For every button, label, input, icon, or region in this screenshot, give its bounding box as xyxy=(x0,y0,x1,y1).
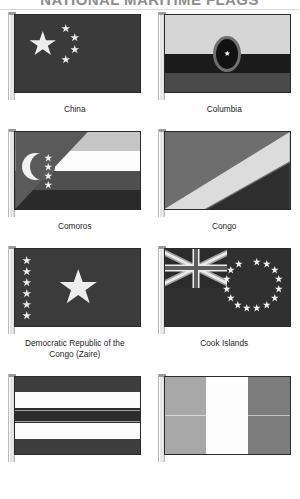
star-large xyxy=(59,269,97,306)
flag-cell-columbia[interactable]: Columbia xyxy=(150,12,300,115)
flag-unit xyxy=(158,374,291,462)
flag-cell-drc[interactable]: Democratic Republic of the Congo (Zaire) xyxy=(0,246,150,360)
flag-unit xyxy=(158,129,291,217)
flag-unit xyxy=(158,246,291,334)
flag-caption: Congo xyxy=(158,221,292,232)
stripe-center xyxy=(206,377,248,454)
star-small xyxy=(22,256,31,265)
caption-line: Congo xyxy=(158,221,292,232)
flag-cell-comoros[interactable]: Comoros xyxy=(0,129,150,232)
flag-image-comoros xyxy=(14,131,141,210)
star-small xyxy=(61,55,70,64)
flag-unit xyxy=(8,129,141,217)
flag-image-columbia xyxy=(164,14,291,93)
caption-line: Columbia xyxy=(158,104,292,115)
flag-cell-cote-divoire[interactable] xyxy=(150,374,300,462)
caption-line: China xyxy=(8,104,142,115)
flag-image-china xyxy=(14,14,141,93)
star-small xyxy=(22,289,31,298)
flag-row: Comoros Congo xyxy=(0,129,299,232)
flag-caption: Cook Islands xyxy=(158,338,292,349)
title-divider xyxy=(0,9,299,10)
stripe-5 xyxy=(15,439,140,454)
emblem-star xyxy=(224,51,230,57)
union-jack-canton xyxy=(165,249,228,288)
flag-image-drc xyxy=(14,248,141,327)
band-4 xyxy=(15,190,140,209)
stripe-right xyxy=(248,377,290,454)
stripe-4 xyxy=(15,423,140,438)
star-small xyxy=(70,33,79,42)
star-small xyxy=(22,300,31,309)
flag-image-congo xyxy=(164,131,291,210)
flag-caption: Comoros xyxy=(8,221,142,232)
flag-reference-page: NATIONAL MARITIME FLAGS xyxy=(0,0,299,499)
star-small xyxy=(22,278,31,287)
flag-row xyxy=(0,374,299,462)
flag-caption: Democratic Republic of the Congo (Zaire) xyxy=(8,338,142,360)
flag-image-cote-divoire xyxy=(164,376,291,455)
flag-caption: China xyxy=(8,104,142,115)
star-small xyxy=(61,24,70,33)
flag-caption: Columbia xyxy=(158,104,292,115)
stripe-1 xyxy=(15,377,140,392)
stripe-3 xyxy=(15,408,140,423)
flag-unit xyxy=(8,12,141,100)
stripe-left xyxy=(165,377,207,454)
flag-row: China xyxy=(0,12,299,115)
flag-unit xyxy=(8,246,141,334)
oval-emblem xyxy=(216,39,238,69)
page-title: NATIONAL MARITIME FLAGS xyxy=(0,0,299,8)
star-large xyxy=(29,31,56,57)
caption-line: Comoros xyxy=(8,221,142,232)
band-bottom xyxy=(165,73,290,92)
flag-grid: China xyxy=(0,12,299,462)
stripe-2 xyxy=(15,392,140,407)
caption-line: Democratic Republic of the xyxy=(8,338,142,349)
flag-cell-costa-rica[interactable] xyxy=(0,374,150,462)
flag-row: Democratic Republic of the Congo (Zaire) xyxy=(0,246,299,360)
flag-cell-cook-islands[interactable]: Cook Islands xyxy=(150,246,300,360)
flag-unit xyxy=(158,12,291,100)
star-small xyxy=(70,45,79,54)
star-small xyxy=(22,267,31,276)
flag-image-costa-rica xyxy=(14,376,141,455)
caption-line: Congo (Zaire) xyxy=(8,349,142,360)
flag-cell-congo[interactable]: Congo xyxy=(150,129,300,232)
cross-red-vertical xyxy=(194,249,198,288)
flag-cell-china[interactable]: China xyxy=(0,12,150,115)
flag-unit xyxy=(8,374,141,462)
caption-line: Cook Islands xyxy=(158,338,292,349)
flag-image-cook-islands xyxy=(164,248,291,327)
star-small xyxy=(22,311,31,320)
